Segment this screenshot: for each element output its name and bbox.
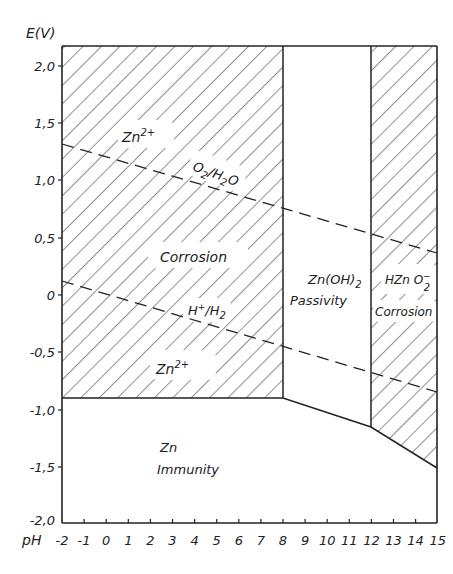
x-tick-label: 3 bbox=[168, 533, 176, 548]
region-corrosion-alkaline bbox=[371, 46, 437, 468]
x-axis-label: pH bbox=[21, 532, 42, 548]
x-tick-label: 15 bbox=[429, 533, 446, 548]
x-tick-label: 6 bbox=[235, 533, 243, 548]
y-axis-tick-labels: 2,0 1,5 1,0 0,5 0 -0,5 -1,0 -1,5 -2,0 bbox=[30, 59, 55, 528]
x-tick-label: 0 bbox=[102, 533, 110, 548]
svg-text:1,0: 1,0 bbox=[34, 173, 55, 188]
svg-text:0: 0 bbox=[47, 288, 55, 303]
x-tick-label: 1 bbox=[124, 533, 132, 548]
x-tick-label: 11 bbox=[341, 533, 358, 548]
x-tick-label: 4 bbox=[190, 533, 198, 548]
pourbaix-diagram: 2,0 1,5 1,0 0,5 0 -0,5 -1,0 -1,5 -2,0 E(… bbox=[0, 0, 453, 574]
region-corrosion-acid bbox=[62, 46, 283, 398]
x-tick-label: -1 bbox=[78, 533, 91, 548]
x-tick-label: 13 bbox=[385, 533, 402, 548]
svg-text:-1,5: -1,5 bbox=[30, 460, 55, 475]
svg-text:1,5: 1,5 bbox=[34, 116, 55, 131]
svg-text:-1,0: -1,0 bbox=[30, 403, 55, 418]
label-znoh2: Zn(OH)2 bbox=[307, 272, 362, 290]
y-axis-label: E(V) bbox=[26, 25, 55, 41]
svg-text:-2,0: -2,0 bbox=[30, 513, 55, 528]
x-tick-label: 14 bbox=[407, 533, 424, 548]
x-tick-label: 5 bbox=[213, 533, 221, 548]
x-tick-label: 12 bbox=[363, 533, 380, 548]
x-tick-label: 10 bbox=[319, 533, 336, 548]
label-corrosion-right: Corrosion bbox=[375, 305, 432, 319]
x-tick-label: 7 bbox=[257, 533, 266, 548]
label-corrosion-left: Corrosion bbox=[160, 249, 227, 265]
label-zn-immunity: Zn bbox=[159, 440, 177, 455]
hatched-regions bbox=[62, 46, 437, 468]
label-passivity: Passivity bbox=[290, 293, 347, 308]
x-tick-label: 9 bbox=[301, 533, 309, 548]
x-tick-label: 2 bbox=[146, 533, 154, 548]
svg-text:2,0: 2,0 bbox=[34, 59, 55, 74]
x-tick-label: 8 bbox=[279, 533, 287, 548]
svg-text:0,5: 0,5 bbox=[34, 231, 55, 246]
svg-text:-0,5: -0,5 bbox=[30, 345, 55, 360]
label-immunity: Immunity bbox=[157, 462, 219, 477]
x-axis-tick-labels: -2-10123456789101112131415 bbox=[56, 533, 446, 548]
x-tick-label: -2 bbox=[56, 533, 69, 548]
